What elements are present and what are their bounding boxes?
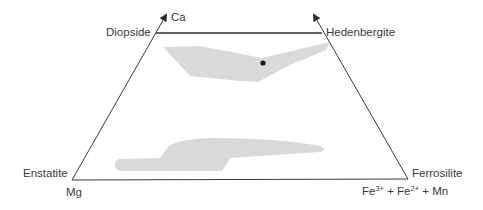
diopside-label: Diopside [106,27,151,39]
enstatite-ferrosilite-join [72,179,408,180]
mg-apex-label: Mg [66,187,82,199]
fe3-superscript: 3+ [375,184,384,193]
pyroxene-quadrilateral-diagram [0,0,483,210]
enstatite-label: Enstatite [23,168,68,180]
upper-composition-field [163,42,330,82]
fe-mn-apex-label: Fe3+ + Fe2+ + Mn [362,185,448,198]
fe2-superscript: 2+ [411,184,420,193]
ferrosilite-label: Ferrosilite [412,168,462,180]
fe-text-1: Fe [362,185,375,197]
left-side-arrow-to-ca [72,15,166,180]
lower-composition-field [115,138,324,171]
ca-apex-label: Ca [171,12,186,24]
fe-text-2: + Fe [384,185,411,197]
hedenbergite-label: Hedenbergite [326,27,395,39]
composition-point [260,60,265,65]
mn-text: + Mn [419,185,448,197]
right-side-arrow-to-ca [314,15,408,179]
